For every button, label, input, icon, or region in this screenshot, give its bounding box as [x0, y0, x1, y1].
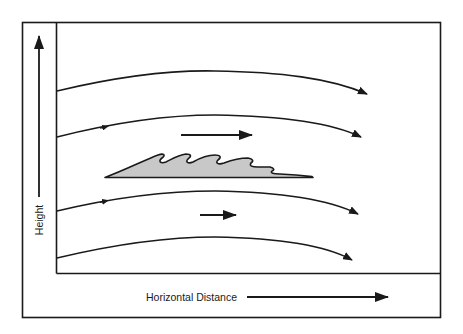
streamline-4: [57, 237, 352, 260]
streamline-2: [57, 115, 361, 137]
diagram-canvas: Height Horizontal Distance: [0, 0, 463, 334]
wave-cloud: [105, 154, 313, 178]
streamline-1: [57, 71, 367, 94]
horizontal-axis-label: Horizontal Distance: [146, 291, 237, 303]
height-axis-label: Height: [33, 205, 45, 235]
